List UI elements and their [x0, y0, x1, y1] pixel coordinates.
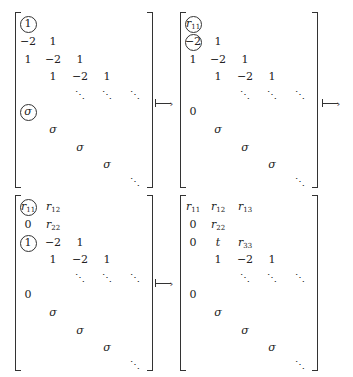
matrix-entry: 1: [96, 71, 118, 83]
matrix-entry: 1: [42, 71, 64, 83]
pivot-circle: [20, 16, 37, 33]
matrix-entry: 1: [17, 54, 39, 66]
matrix-entry: ⋱: [69, 272, 91, 284]
matrix-entry: −2: [234, 71, 256, 83]
subscript: 22: [216, 224, 225, 232]
matrix-entry: σ: [234, 325, 256, 337]
matrix-entry: σ: [69, 142, 91, 154]
matrix-entry: ⋱: [124, 89, 146, 101]
matrix-entry: σ: [96, 342, 118, 354]
matrix-entry: 1: [69, 237, 91, 249]
matrix-entry: 1: [234, 54, 256, 66]
matrix-entry: −2: [69, 254, 91, 266]
matrix-entry: 1: [42, 254, 64, 266]
matrix-entry: ⋱: [289, 359, 311, 371]
cropped-text-fragment: [0, 0, 353, 4]
matrix-entry: ⋱: [261, 272, 283, 284]
matrix-entry: −2: [234, 254, 256, 266]
matrix-entry: 1: [261, 254, 283, 266]
subscript: 11: [191, 206, 200, 214]
matrix-entry: ⋱: [289, 89, 311, 101]
matrix-entry: 1: [96, 254, 118, 266]
matrix-entry: −2: [69, 71, 91, 83]
matrix-entry: ⋱: [261, 89, 283, 101]
right-bracket: [147, 12, 153, 188]
matrix-entry: 1: [182, 54, 204, 66]
matrix-entry: 0: [182, 219, 204, 231]
matrix-entry: σ: [42, 307, 64, 319]
subscript: 22: [51, 224, 60, 232]
matrix-entry: ⋱: [234, 89, 256, 101]
matrix-step-2: r11−211−211−21⋱⋱⋱0σσσ⋱: [180, 12, 318, 188]
matrix-entry: r22: [207, 219, 229, 234]
matrix-entry: r33: [234, 237, 256, 252]
subscript: 12: [216, 206, 225, 214]
matrix-entry: ⋱: [124, 359, 146, 371]
pivot-circle: [185, 34, 202, 51]
matrix-entry: −2: [207, 54, 229, 66]
matrix-entry: 1: [42, 36, 64, 48]
matrix-entry: ⋱: [69, 89, 91, 101]
matrix-entry: r12: [207, 201, 229, 216]
matrix-entry: 1: [207, 254, 229, 266]
matrix-entry: σ: [234, 142, 256, 154]
matrix-entry: σ: [261, 342, 283, 354]
matrix-entry: σ: [207, 307, 229, 319]
mapsto-arrow-2: ›: [322, 99, 340, 107]
matrix-entry: 0: [182, 289, 204, 301]
subscript: 33: [243, 242, 252, 250]
subscript: 13: [243, 206, 252, 214]
matrix-entry: t: [207, 237, 229, 249]
matrix-entry: σ: [207, 124, 229, 136]
matrix-entry: 1: [207, 71, 229, 83]
matrix-entry: r22: [42, 219, 64, 234]
matrix-step-3: r11r120r221−211−21⋱⋱⋱0σσσ⋱: [15, 195, 153, 371]
matrix-entry: ⋱: [96, 272, 118, 284]
matrix-entry: 0: [17, 289, 39, 301]
matrix-step-1: 1−211−211−21⋱⋱⋱σσσσ⋱: [15, 12, 153, 188]
matrix-entry: σ: [96, 159, 118, 171]
matrix-entry: 1: [261, 71, 283, 83]
matrix-entry: σ: [69, 325, 91, 337]
matrix-entry: ⋱: [289, 272, 311, 284]
matrix-entry: r12: [42, 201, 64, 216]
right-bracket: [312, 12, 318, 188]
matrix-entry: 0: [17, 219, 39, 231]
matrix-entry: 0: [182, 237, 204, 249]
matrix-entry: σ: [261, 159, 283, 171]
matrix-entry: ⋱: [234, 272, 256, 284]
matrix-entry: 1: [69, 54, 91, 66]
right-bracket: [312, 195, 318, 371]
matrix-entry: ⋱: [96, 89, 118, 101]
matrix-entry: −2: [42, 237, 64, 249]
matrix-entry: −2: [17, 36, 39, 48]
pivot-circle: [20, 104, 37, 121]
matrix-entry: ⋱: [124, 176, 146, 188]
subscript: 12: [51, 206, 60, 214]
pivot-circle: [20, 235, 37, 252]
mapsto-arrow-1: ›: [155, 99, 173, 107]
matrix-entry: ⋱: [124, 272, 146, 284]
right-bracket: [147, 195, 153, 371]
matrix-entry: r13: [234, 201, 256, 216]
matrix-entry: r11: [182, 201, 204, 216]
matrix-step-4: r11r12r130r220tr331−21⋱⋱⋱0σσσ⋱: [180, 195, 318, 371]
mapsto-arrow-3: ›: [155, 279, 173, 287]
pivot-circle: [20, 199, 37, 216]
pivot-circle: [185, 16, 202, 33]
matrix-entry: 1: [207, 36, 229, 48]
matrix-entry: σ: [42, 124, 64, 136]
matrix-entry: 0: [182, 106, 204, 118]
matrix-entry: ⋱: [289, 176, 311, 188]
matrix-entry: −2: [42, 54, 64, 66]
